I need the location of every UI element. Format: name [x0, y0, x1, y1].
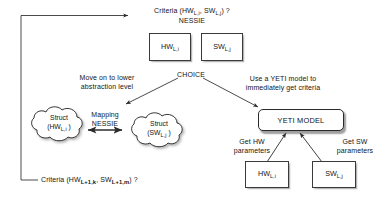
choice-left-branch-caption: Move on to lower abstraction level: [62, 73, 152, 91]
cloud-sw-struct-suffix: ): [167, 129, 171, 136]
yeti-model-box[interactable]: YETI MODEL: [258, 109, 344, 131]
cloud-sw-struct-group: Struct (SWL,j ): [130, 110, 188, 150]
box-hw-bottom-label: HW: [258, 169, 270, 178]
get-sw-parameters-arrow: [300, 133, 322, 162]
feedback-mid: , SW: [96, 176, 112, 183]
box-sw-top-sub: L,j: [225, 46, 231, 52]
get-hw-line1: Get HW: [225, 137, 279, 146]
diagram-canvas: Criteria (HWL,i, SWL,j) ? NESSIE HWL,i S…: [0, 0, 391, 197]
cloud-sw-struct-line2: (SWL,j ): [147, 129, 170, 140]
cloud-hw-struct-sub: L,i: [61, 126, 67, 132]
cloud-sw-struct-prefix: (SW: [147, 129, 160, 136]
box-sw-top-text: SWL,j: [213, 42, 231, 52]
yeti-model-label: YETI MODEL: [278, 116, 325, 125]
cloud-hw-struct-prefix: (HW: [47, 123, 61, 130]
feedback-suffix: ) ?: [129, 176, 137, 183]
box-sw-top-label: SW: [213, 42, 225, 51]
get-sw-line2: parameters: [328, 146, 382, 155]
get-hw-line2: parameters: [225, 146, 279, 155]
mapping-line2: NESSIE: [80, 119, 130, 128]
feedback-sub1: L+1,k: [81, 179, 97, 185]
choice-label: CHOICE: [160, 70, 222, 79]
choice-right-branch-line1: Use a YETI model to: [228, 74, 338, 83]
box-hw-bottom[interactable]: HWL,i: [245, 161, 289, 188]
get-hw-parameters-label: Get HW parameters: [225, 137, 279, 155]
mapping-line1: Mapping: [80, 110, 130, 119]
box-sw-bottom[interactable]: SWL,j: [312, 161, 356, 188]
box-sw-bottom-sub: L,j: [337, 174, 343, 180]
cloud-sw-struct-line1: Struct: [150, 120, 168, 129]
top-criteria-prefix: Criteria (HW: [154, 7, 194, 14]
cloud-hw-struct-suffix: ): [67, 123, 71, 130]
cloud-hw-struct-line2: (HWL,i ): [47, 123, 71, 134]
feedback-loop-arrow: [21, 16, 128, 181]
choice-left-branch-line1: Move on to lower: [62, 73, 152, 82]
choice-left-branch-line2: abstraction level: [62, 82, 152, 91]
get-sw-line1: Get SW: [328, 137, 382, 146]
feedback-sub2: L+1,m: [112, 179, 129, 185]
cloud-hw-struct-line1: Struct: [50, 114, 68, 123]
box-hw-bottom-sub: L,i: [270, 174, 276, 180]
top-criteria-mid: , SW: [200, 7, 216, 14]
cloud-sw-struct-text: Struct (SWL,j ): [130, 110, 188, 150]
box-hw-top-label: HW: [161, 42, 173, 51]
choice-right-branch-caption: Use a YETI model to immediately get crit…: [228, 74, 338, 92]
box-hw-bottom-text: HWL,i: [258, 169, 276, 179]
feedback-criteria-label: Criteria (HWL+1,k, SWL+1,m) ?: [41, 175, 138, 187]
cloud-sw-struct-sub: L,j: [161, 132, 167, 138]
feedback-prefix: Criteria (HW: [41, 176, 81, 183]
box-sw-top[interactable]: SWL,j: [201, 33, 243, 61]
box-sw-bottom-label: SW: [325, 169, 337, 178]
box-sw-bottom-text: SWL,j: [325, 169, 343, 179]
get-sw-parameters-label: Get SW parameters: [328, 137, 382, 155]
top-criteria-suffix: ) ?: [221, 7, 229, 14]
choice-right-branch-line2: immediately get criteria: [228, 83, 338, 92]
box-hw-top-sub: L,i: [173, 46, 179, 52]
box-hw-top-text: HWL,i: [161, 42, 179, 52]
box-hw-top[interactable]: HWL,i: [149, 33, 191, 61]
top-nessie-label: NESSIE: [132, 16, 252, 25]
mapping-nessie-label: Mapping NESSIE: [80, 110, 130, 128]
